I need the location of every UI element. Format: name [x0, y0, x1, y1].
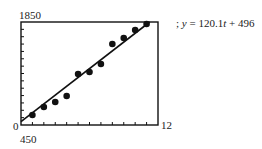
- y-min-label: 450: [20, 134, 37, 145]
- y-max-label: 1850: [19, 10, 41, 21]
- x-min-label: 0: [13, 121, 19, 132]
- regression-equation: ; y = 120.1t + 496: [176, 17, 254, 29]
- eq-mid: = 120.1: [187, 17, 223, 29]
- axis-ticks: [21, 29, 147, 125]
- eq-end: + 496: [226, 17, 254, 29]
- x-max-label: 12: [161, 120, 172, 131]
- regression-line: [21, 22, 150, 122]
